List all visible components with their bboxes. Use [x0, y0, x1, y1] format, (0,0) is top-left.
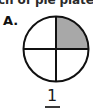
clipped-header-text: ich of pie plate	[0, 0, 93, 8]
fraction-denominator: 4	[41, 108, 63, 110]
figure-panel: ich of pie plate A. 1 4	[0, 0, 93, 110]
fraction-label: 1 4	[0, 86, 93, 110]
fraction-stack: 1 4	[41, 86, 63, 110]
pie-circle-diagram	[21, 14, 91, 85]
fraction-numerator: 1	[41, 86, 63, 105]
question-item-label: A.	[3, 14, 18, 28]
